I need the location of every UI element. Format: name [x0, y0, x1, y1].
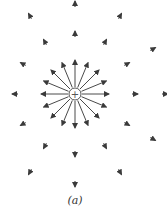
field-arrow-inner: [44, 81, 69, 91]
field-arrow-outer-ring: [29, 169, 32, 174]
field-arrow-middle-ring: [20, 63, 25, 66]
field-arrow-outer-ring: [150, 48, 155, 51]
field-arrow-outer-ring: [119, 13, 122, 18]
field-arrow-middle-ring: [124, 63, 129, 66]
field-arrow-inner: [44, 97, 69, 107]
electric-field-diagram: +: [0, 0, 167, 214]
field-arrow-inner: [81, 81, 106, 91]
field-arrow-middle-ring: [104, 143, 107, 148]
field-arrow-inner: [62, 100, 72, 125]
field-arrow-middle-ring: [44, 143, 47, 148]
field-arrow-outer-ring: [29, 13, 32, 18]
field-arrow-middle-ring: [20, 123, 25, 126]
field-arrow-inner: [51, 99, 70, 118]
field-arrow-inner: [81, 97, 106, 107]
field-arrow-middle-ring: [124, 123, 129, 126]
figure-caption: (a): [0, 194, 150, 207]
field-arrow-inner: [62, 63, 72, 88]
field-arrow-inner: [80, 99, 99, 118]
field-arrow-inner: [78, 63, 88, 88]
field-arrow-outer-ring: [119, 169, 122, 174]
field-arrow-inner: [78, 100, 88, 125]
plus-sign-icon: +: [71, 89, 79, 100]
field-arrow-middle-ring: [44, 39, 47, 44]
field-arrow-middle-ring: [104, 39, 107, 44]
field-arrow-inner: [51, 70, 70, 89]
field-arrow-inner: [80, 70, 99, 89]
field-arrow-outer-ring: [150, 138, 155, 141]
